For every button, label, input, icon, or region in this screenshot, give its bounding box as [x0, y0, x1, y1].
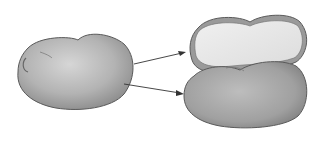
- arrow-to-top-half: [134, 53, 182, 64]
- whole-bean: [18, 34, 133, 109]
- arrow-to-bottom-half: [124, 84, 180, 93]
- arrows: [124, 51, 186, 96]
- bottom-cotyledon: [184, 62, 307, 128]
- bean-illustration: [0, 0, 321, 142]
- bean-figure: [0, 0, 321, 142]
